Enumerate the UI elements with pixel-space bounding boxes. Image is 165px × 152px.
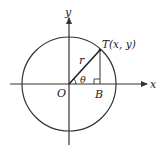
radius-label: r [79,54,85,67]
angle-arc [74,79,76,84]
point-T [99,49,102,52]
x-axis-label: x [150,78,157,91]
angle-label: θ [80,74,86,85]
y-axis-label: y [64,6,72,19]
right-angle-marker [94,79,100,84]
point-T-label: T(x, y) [102,38,136,50]
origin-label: O [57,87,66,100]
point-B-label: B [94,88,103,101]
trig-circle-diagram: y x O T(x, y) B r θ [0,0,165,152]
